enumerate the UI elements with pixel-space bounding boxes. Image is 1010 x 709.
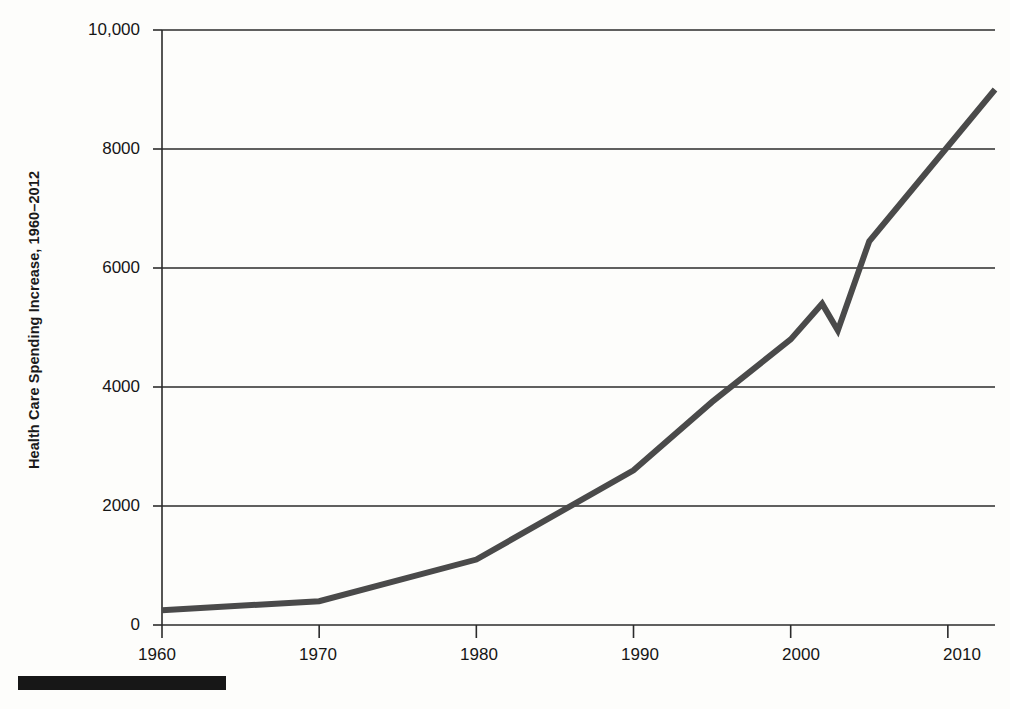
x-tick-marks-group: [162, 625, 948, 638]
data-series-group: [162, 90, 995, 611]
series-line-0: [162, 90, 995, 611]
footer-rule-bar: [18, 676, 226, 690]
chart-plot-svg: [0, 0, 1010, 709]
gridlines-group: [162, 30, 995, 625]
chart-figure: Health Care Spending Increase, 1960–2012…: [0, 0, 1010, 709]
y-tick-marks-group: [153, 30, 162, 625]
